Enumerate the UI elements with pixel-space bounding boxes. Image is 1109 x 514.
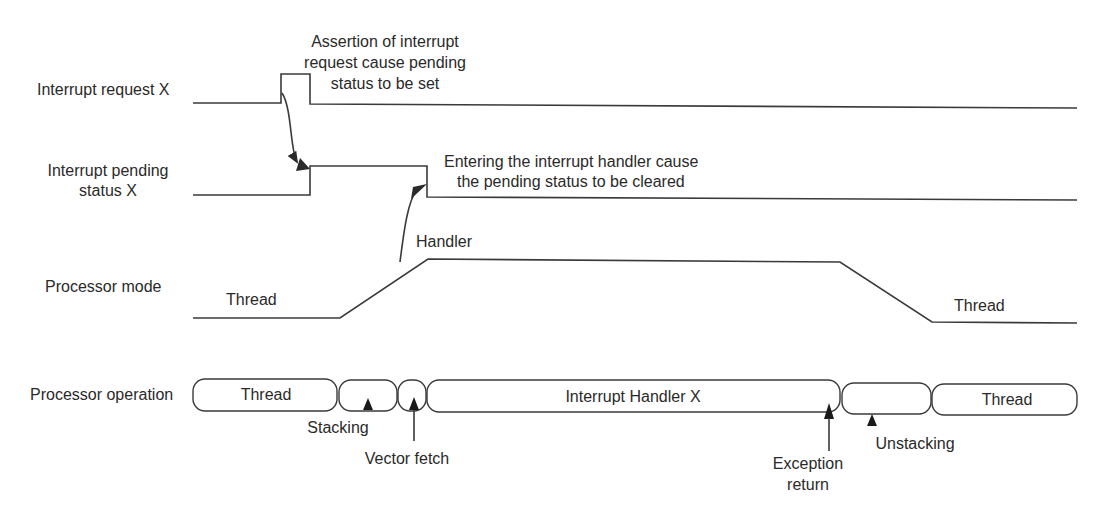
unstacking-marker-icon: [867, 414, 877, 426]
annotation-exception-return-line2: return: [787, 476, 829, 493]
annotation-stacking: Stacking: [307, 419, 368, 436]
op-segment-thread-1-label: Thread: [241, 386, 292, 403]
op-segment-interrupt-handler-label: Interrupt Handler X: [565, 388, 701, 405]
signal-label-interrupt-request: Interrupt request X: [37, 81, 170, 98]
signal-label-processor-operation: Processor operation: [30, 386, 173, 403]
signal-label-pending-line2: status X: [79, 182, 137, 199]
mode-state-thread-1: Thread: [226, 291, 277, 308]
annotation-vector-fetch: Vector fetch: [365, 450, 450, 467]
arrowhead-pending-clear: [411, 184, 427, 199]
annotation-entering-line2: the pending status to be cleared: [457, 173, 685, 190]
arrow-handler-to-pending-clear: [400, 190, 417, 262]
annotation-exception-return-line1: Exception: [773, 455, 843, 472]
annotation-assertion-line2: request cause pending: [304, 54, 466, 71]
waveform-processor-mode: [193, 259, 1077, 323]
waveform-interrupt-request: [193, 74, 1077, 108]
arrowhead-pending-set: [296, 158, 310, 171]
annotation-entering-line1: Entering the interrupt handler cause: [444, 153, 698, 170]
interrupt-timing-diagram: Interrupt request X Interrupt pending st…: [0, 0, 1109, 514]
annotation-assertion-line1: Assertion of interrupt: [311, 33, 459, 50]
annotation-assertion-line3: status to be set: [331, 75, 440, 92]
op-segment-thread-2-label: Thread: [982, 391, 1033, 408]
op-segment-unstacking: [842, 383, 931, 414]
mode-state-thread-2: Thread: [954, 297, 1005, 314]
annotation-unstacking: Unstacking: [875, 435, 954, 452]
signal-label-processor-mode: Processor mode: [45, 278, 162, 295]
arrow-irq-to-pending: [282, 93, 297, 162]
signal-label-pending-line1: Interrupt pending: [48, 162, 169, 179]
mode-state-handler: Handler: [416, 233, 473, 250]
